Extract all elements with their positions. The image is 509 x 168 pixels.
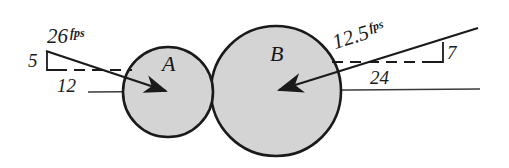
rise-label-b: 7 (447, 43, 457, 62)
run-label-b: 24 (370, 68, 389, 87)
velocity-a-units: fps (70, 26, 85, 40)
sphere-a-label: A (162, 53, 175, 75)
sphere-b-label: B (270, 43, 283, 65)
rise-label-a: 5 (28, 51, 38, 70)
impact-diagram: A B 26fps 5 12 12.5fps 7 24 (0, 0, 509, 168)
rise-leg-b (433, 42, 443, 62)
run-label-a: 12 (57, 76, 76, 95)
velocity-a-magnitude: 26 (47, 24, 68, 48)
velocity-a-label: 26fps (47, 26, 85, 47)
